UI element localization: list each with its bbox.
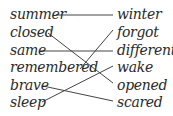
left-word-summer: summer xyxy=(10,6,66,22)
right-word-opened: opened xyxy=(117,77,167,93)
left-word-remembered: remembered xyxy=(10,59,98,75)
right-word-wake: wake xyxy=(117,59,153,75)
left-word-brave: brave xyxy=(10,77,49,93)
left-word-closed: closed xyxy=(10,24,53,40)
matching-exercise: summer closed same remembered brave slee… xyxy=(0,0,173,116)
left-word-same: same xyxy=(10,42,46,58)
match-line-closed-opened xyxy=(48,33,113,83)
right-word-forgot: forgot xyxy=(117,24,159,40)
left-word-sleep: sleep xyxy=(10,94,46,110)
right-word-different: different xyxy=(117,42,173,58)
right-word-winter: winter xyxy=(117,6,161,22)
right-word-scared: scared xyxy=(117,94,163,110)
match-line-brave-scared xyxy=(43,86,113,101)
